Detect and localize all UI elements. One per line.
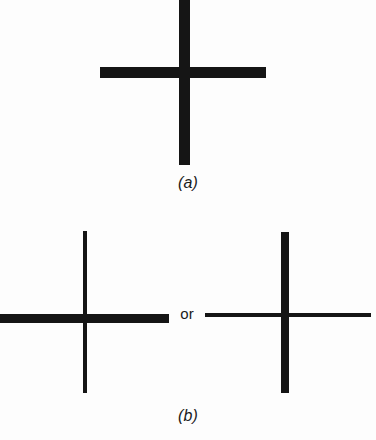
panel-a-label: (a): [0, 174, 376, 192]
or-connector-label: or: [169, 305, 205, 322]
panel-b-label: (b): [0, 407, 376, 425]
panel-b: or (b): [0, 205, 376, 440]
cross-b-right-horizontal-bar: [205, 313, 371, 317]
cross-a-vertical-bar: [179, 0, 190, 165]
figure-container: (a) or (b): [0, 0, 376, 440]
cross-b-left-vertical-bar: [83, 231, 87, 393]
panel-a: (a): [0, 0, 376, 205]
cross-b-left-horizontal-bar: [0, 314, 169, 323]
cross-a-horizontal-bar: [100, 67, 266, 78]
